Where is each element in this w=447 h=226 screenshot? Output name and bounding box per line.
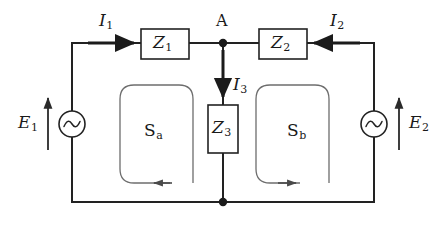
ac-source-e1 xyxy=(59,111,85,137)
impedance-label-z2: Z2 xyxy=(271,34,290,53)
node-dot-bottom xyxy=(219,198,227,206)
current-label-i3: I3 xyxy=(233,76,247,95)
source-label-e1: E1 xyxy=(18,114,38,133)
circuit-diagram-canvas: A I1 I2 I3 E1 E2 Z1 Z2 Z3 Sa Sb xyxy=(0,0,447,226)
current-label-i2: I2 xyxy=(330,12,344,31)
current-label-i1: I1 xyxy=(99,12,113,31)
mesh-label-sa: Sa xyxy=(144,122,163,141)
circuit-schematic xyxy=(0,0,447,226)
mesh-label-sb: Sb xyxy=(287,122,306,141)
impedance-label-z3: Z3 xyxy=(212,119,231,138)
ac-source-e2 xyxy=(361,111,387,137)
node-dot-a xyxy=(219,39,227,47)
source-label-e2: E2 xyxy=(409,114,429,133)
node-label-a: A xyxy=(216,13,228,29)
impedance-label-z1: Z1 xyxy=(153,34,172,53)
